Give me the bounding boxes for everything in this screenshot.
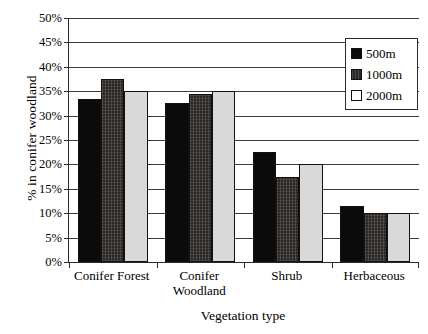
bar-chart: % in conifer woodland 50%45%40%35%30%25%…	[0, 0, 428, 334]
bar	[340, 206, 363, 262]
y-axis-tick-label: 5%	[18, 232, 62, 244]
bar	[276, 177, 299, 262]
bar	[124, 91, 147, 262]
y-axis-tick-label: 10%	[18, 207, 62, 219]
x-axis-title: Vegetation type	[68, 308, 418, 324]
legend-swatch-icon	[351, 48, 362, 59]
bar-group	[78, 18, 148, 262]
bar	[101, 79, 124, 262]
legend: 500m1000m2000m	[345, 38, 418, 110]
x-axis-category-labels: Conifer ForestConifer WoodlandShrubHerba…	[68, 268, 418, 304]
bar	[364, 213, 387, 262]
y-axis-tick-label: 35%	[18, 85, 62, 97]
bar-group	[165, 18, 235, 262]
bar-group	[253, 18, 323, 262]
bar	[78, 99, 101, 262]
y-axis-tick-label: 25%	[18, 134, 62, 146]
bar	[189, 94, 212, 262]
y-axis-tick-label: 15%	[18, 183, 62, 195]
y-axis-tick-label: 50%	[18, 12, 62, 24]
bar	[299, 164, 322, 262]
bar	[387, 213, 410, 262]
bar	[165, 103, 188, 262]
legend-item-label: 500m	[366, 47, 396, 60]
legend-item-label: 2000m	[366, 89, 402, 102]
y-axis-tick-label: 30%	[18, 110, 62, 122]
legend-item: 500m	[351, 43, 417, 64]
y-axis-tick-label: 20%	[18, 158, 62, 170]
y-axis-tick-labels: 50%45%40%35%30%25%20%15%10%5%0%	[18, 18, 62, 262]
legend-item: 2000m	[351, 85, 417, 106]
legend-swatch-icon	[351, 90, 362, 101]
x-axis-category-label: Herbaceous	[317, 268, 428, 283]
legend-item: 1000m	[351, 64, 417, 85]
bar	[212, 91, 235, 262]
y-axis-tick-label: 45%	[18, 36, 62, 48]
y-axis-tick-label: 40%	[18, 61, 62, 73]
y-axis-tick-label: 0%	[18, 256, 62, 268]
bar	[253, 152, 276, 262]
legend-swatch-icon	[351, 69, 362, 80]
legend-item-label: 1000m	[366, 68, 402, 81]
